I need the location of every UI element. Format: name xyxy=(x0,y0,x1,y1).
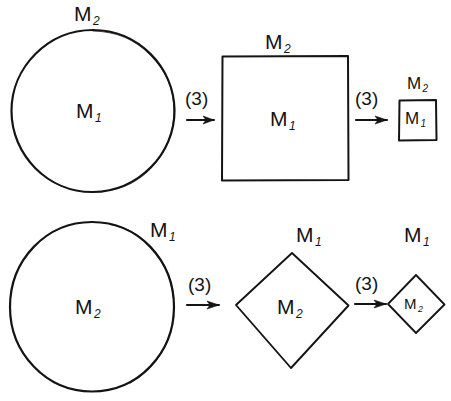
arrow-row2-1 xyxy=(187,301,219,309)
label-text-sub: 2 xyxy=(284,42,291,56)
label-text-sub: 2 xyxy=(94,307,101,321)
label-text-base: M xyxy=(404,223,422,246)
label-text-sub: 2 xyxy=(93,14,100,28)
diagram-vector-layer xyxy=(0,0,451,401)
label-text-base: M xyxy=(76,99,94,122)
label-circle-row2-inner: M2 xyxy=(75,296,100,317)
label-square-row1-inner: M1 xyxy=(270,108,295,129)
label-text-base: M xyxy=(404,295,417,312)
label-diamond-row2-inner: M2 xyxy=(277,296,302,317)
diagram-canvas: M2 M1 M2 M1 M2 M1 (3) (3) M1 M2 M1 M2 M1… xyxy=(0,0,451,401)
label-text-base: M xyxy=(407,74,422,93)
label-text-sub: 1 xyxy=(289,119,296,133)
label-text-base: M xyxy=(265,30,283,53)
label-text-sub: 1 xyxy=(421,118,427,129)
label-text-base: M xyxy=(270,107,288,130)
shape-circle-row2-overdraw xyxy=(110,225,174,384)
label-text-sub: 2 xyxy=(418,304,423,314)
label-text-sub: 1 xyxy=(95,111,102,125)
arrow-label-row1-2: (3) xyxy=(355,89,378,108)
label-circle-row1-outer: M2 xyxy=(74,3,99,24)
label-text-sub: 2 xyxy=(296,307,303,321)
label-small-square-row1-outer: M2 xyxy=(407,75,427,92)
label-small-square-row1-inner: M1 xyxy=(405,110,425,127)
label-circle-row2-outer: M1 xyxy=(150,219,175,240)
label-text-base: M xyxy=(74,2,92,25)
label-text-sub: 1 xyxy=(423,235,430,249)
arrow-row1-1 xyxy=(187,116,214,124)
label-text-base: M xyxy=(296,223,314,246)
label-text-sub: 2 xyxy=(423,83,429,94)
label-text-base: M xyxy=(277,295,295,318)
label-square-row1-outer: M2 xyxy=(265,31,290,52)
label-text-sub: 1 xyxy=(315,235,322,249)
arrow-label-row2-1: (3) xyxy=(188,275,211,294)
label-text-sub: 1 xyxy=(169,230,176,244)
label-circle-row1-inner: M1 xyxy=(76,100,101,121)
arrow-row1-2 xyxy=(356,116,387,124)
label-small-diamond-row2-outer: M1 xyxy=(404,224,429,245)
label-diamond-row2-outer: M1 xyxy=(296,224,321,245)
label-text-base: M xyxy=(75,295,93,318)
shape-circle-row1-overdraw xyxy=(93,31,174,190)
arrow-row2-2 xyxy=(355,300,386,308)
arrow-label-row1-1: (3) xyxy=(185,89,208,108)
arrow-label-row2-2: (3) xyxy=(355,274,378,293)
label-text-base: M xyxy=(405,109,420,128)
label-text-base: M xyxy=(150,218,168,241)
label-small-diamond-row2-inner: M2 xyxy=(404,296,422,312)
